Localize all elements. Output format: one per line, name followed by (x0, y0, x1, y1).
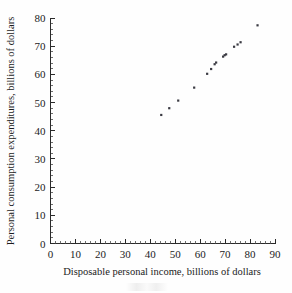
y-tick-label: 10 (35, 209, 47, 221)
y-tick-label: 60 (35, 68, 47, 80)
y-tick-label: 70 (35, 40, 47, 52)
data-point (256, 24, 258, 26)
x-tick-label: 80 (245, 248, 257, 260)
data-point (177, 99, 179, 101)
y-tick-label: 30 (35, 153, 47, 165)
plot-canvas: 0102030405060708090 01020304050607080 Di… (0, 0, 292, 293)
x-tick-label: 90 (270, 248, 282, 260)
x-tick-label: 0 (48, 248, 54, 260)
data-points-layer (160, 24, 258, 116)
x-tick-label: 10 (70, 248, 82, 260)
data-point (215, 61, 217, 63)
data-point (225, 53, 227, 55)
x-tick-label: 60 (195, 248, 207, 260)
data-point (168, 107, 170, 109)
scatter-plot-figure: 0102030405060708090 01020304050607080 Di… (0, 0, 292, 293)
x-axis-tick-labels: 0102030405060708090 (48, 248, 281, 260)
x-axis-title: Disposable personal income, billions of … (63, 266, 261, 277)
x-axis-ticks (51, 239, 276, 244)
data-point (233, 46, 235, 48)
y-axis-title: Personal consumption expenditures, billi… (5, 17, 16, 246)
data-point (239, 41, 241, 43)
y-tick-label: 20 (35, 181, 47, 193)
y-tick-label: 80 (35, 12, 47, 24)
x-tick-label: 30 (120, 248, 132, 260)
x-tick-label: 50 (170, 248, 182, 260)
y-tick-label: 0 (40, 238, 46, 250)
x-tick-label: 20 (95, 248, 107, 260)
y-axis-ticks (51, 18, 56, 244)
y-tick-label: 40 (35, 125, 47, 137)
data-point (236, 43, 238, 45)
x-tick-label: 70 (220, 248, 232, 260)
data-point (160, 114, 162, 116)
data-point (206, 73, 208, 75)
data-point (210, 68, 212, 70)
x-tick-label: 40 (145, 248, 157, 260)
y-axis-tick-labels: 01020304050607080 (35, 12, 47, 250)
y-tick-label: 50 (35, 97, 47, 109)
data-point (193, 87, 195, 89)
